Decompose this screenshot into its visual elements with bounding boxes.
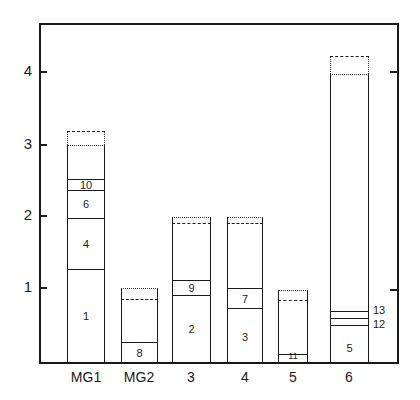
- dotted-level-4: [227, 217, 263, 218]
- y-tick-1: [40, 287, 47, 289]
- y-tick-4: [40, 71, 47, 73]
- segment-label-12: 12: [373, 318, 385, 330]
- dotted-level-6: [330, 74, 369, 75]
- segment-1: 1: [68, 269, 104, 362]
- x-label-5: 5: [268, 369, 318, 385]
- y-tick-label: 1: [12, 278, 32, 295]
- y-tick-label: 4: [12, 62, 32, 79]
- segment-4: 4: [68, 218, 104, 269]
- segment-10: 10: [68, 179, 104, 190]
- segment-13: [331, 311, 368, 318]
- x-label-6: 6: [324, 369, 374, 385]
- y-tick-label: 3: [12, 135, 32, 152]
- bar-6: 5: [330, 74, 369, 362]
- dashed-level-4: [227, 223, 263, 224]
- segment-12: [331, 318, 368, 325]
- dotted-level-mg1: [67, 145, 105, 146]
- segment-5: 5: [331, 325, 368, 362]
- y-tick-2: [40, 215, 47, 217]
- segment-11: 11: [279, 354, 307, 362]
- bar-mg1: 10 6 4 1: [67, 145, 105, 362]
- dotted-extension-mg1: [67, 131, 105, 145]
- dashed-level-mg2: [121, 299, 158, 300]
- y-tick-right-1: [390, 289, 398, 291]
- dashed-level-3: [172, 223, 211, 224]
- y-tick-right-4: [390, 71, 398, 73]
- bar-4: 7 3: [227, 217, 263, 362]
- y-tick-3: [40, 144, 47, 146]
- dotted-level-3: [172, 217, 211, 218]
- bar-3: 9 2: [172, 217, 211, 362]
- segment-3: 3: [228, 308, 262, 362]
- dotted-extension-6: [330, 56, 369, 74]
- segment-2: 2: [173, 295, 210, 362]
- segment-label-13: 13: [373, 304, 385, 316]
- segment-9: 9: [173, 280, 210, 295]
- dashed-level-5: [278, 300, 308, 301]
- x-label-3: 3: [166, 369, 216, 385]
- dashed-level-6: [330, 56, 369, 57]
- x-label-4: 4: [220, 369, 270, 385]
- dotted-level-5: [278, 290, 308, 291]
- segment-6: 6: [68, 190, 104, 218]
- dotted-level-mg2: [121, 288, 158, 289]
- x-label-mg2: MG2: [114, 369, 164, 385]
- segment-7: 7: [228, 288, 262, 308]
- y-tick-label: 2: [12, 206, 32, 223]
- segment-8: 8: [122, 342, 157, 362]
- stacked-bar-chart: 4 3 2 1 10 6 4 1 8 9 2: [0, 0, 420, 400]
- dashed-level-mg1: [67, 131, 105, 132]
- x-label-mg1: MG1: [61, 369, 111, 385]
